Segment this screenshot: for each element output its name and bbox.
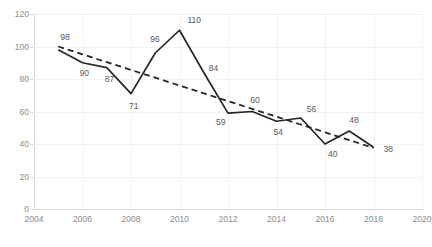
y-axis-tick-label: 80	[0, 75, 29, 84]
x-axis-tick-label: 2004	[14, 215, 54, 224]
x-axis-line	[34, 209, 423, 210]
x-axis-tick-label: 2014	[257, 215, 297, 224]
line-chart: 020406080100120 200420062008201020122014…	[0, 0, 432, 247]
data-point-label: 110	[188, 16, 202, 25]
data-point-label: 40	[328, 150, 337, 159]
y-axis-tick-label: 60	[0, 108, 29, 117]
x-axis-tick-label: 2012	[208, 215, 248, 224]
x-axis-tick-label: 2008	[111, 215, 151, 224]
x-axis-tick-label: 2010	[160, 215, 200, 224]
data-point-label: 59	[216, 118, 225, 127]
data-point-label: 84	[209, 64, 218, 73]
data-series-line	[58, 30, 373, 147]
trendline-series	[58, 47, 373, 148]
data-point-label: 38	[384, 145, 393, 154]
data-point-label: 48	[349, 116, 358, 125]
gridline-vertical	[422, 14, 423, 209]
data-point-label: 90	[80, 69, 89, 78]
data-point-label: 71	[129, 102, 138, 111]
x-axis-tick-label: 2006	[63, 215, 103, 224]
y-axis-tick-label: 40	[0, 140, 29, 149]
y-axis-tick-label: 20	[0, 173, 29, 182]
plot-area: 98908771961108459605456404838	[34, 14, 422, 209]
data-point-label: 56	[307, 105, 316, 114]
x-axis-tick-label: 2018	[354, 215, 394, 224]
data-point-label: 87	[105, 75, 114, 84]
series-layer	[34, 14, 422, 209]
data-point-label: 96	[150, 35, 159, 44]
x-axis-tick-label: 2020	[402, 215, 432, 224]
y-axis-tick-label: 120	[0, 10, 29, 19]
data-point-label: 54	[274, 128, 283, 137]
y-axis-tick-label: 100	[0, 43, 29, 52]
y-axis-tick-label: 0	[0, 205, 29, 214]
data-point-label: 60	[250, 96, 259, 105]
x-axis-tick-label: 2016	[305, 215, 345, 224]
data-point-label: 98	[60, 33, 69, 42]
